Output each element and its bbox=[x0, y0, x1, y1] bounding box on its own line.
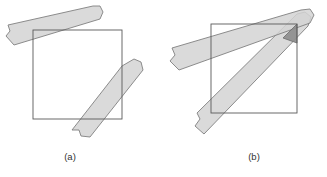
strip-lower-right bbox=[72, 59, 143, 137]
strip-upper-left bbox=[6, 6, 103, 45]
panel-a-caption: (a) bbox=[64, 151, 76, 162]
figure-svg: (a) (b) bbox=[0, 0, 327, 177]
panel-b-caption: (b) bbox=[248, 151, 260, 162]
panel-a: (a) bbox=[6, 6, 143, 162]
figure-container: (a) (b) bbox=[0, 0, 327, 177]
panel-b: (b) bbox=[170, 9, 314, 162]
